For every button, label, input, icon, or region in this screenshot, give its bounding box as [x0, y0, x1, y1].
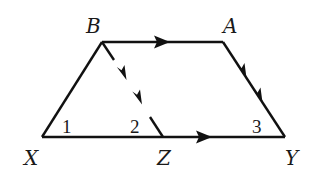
angle-label-2: 2: [130, 116, 140, 137]
angle-label-3: 3: [252, 116, 262, 137]
angle-label-1: 1: [62, 116, 72, 137]
vertex-label-y: Y: [285, 146, 300, 170]
vertex-label-z: Z: [156, 146, 172, 170]
segment-xb: [42, 42, 102, 137]
trapezoid-diagram: B A X Z Y 1 2 3: [0, 0, 314, 174]
double-arrow-icon: [117, 65, 142, 105]
vertex-label-a: A: [221, 14, 237, 38]
vertex-label-x: X: [22, 146, 39, 170]
vertex-label-b: B: [85, 14, 101, 38]
